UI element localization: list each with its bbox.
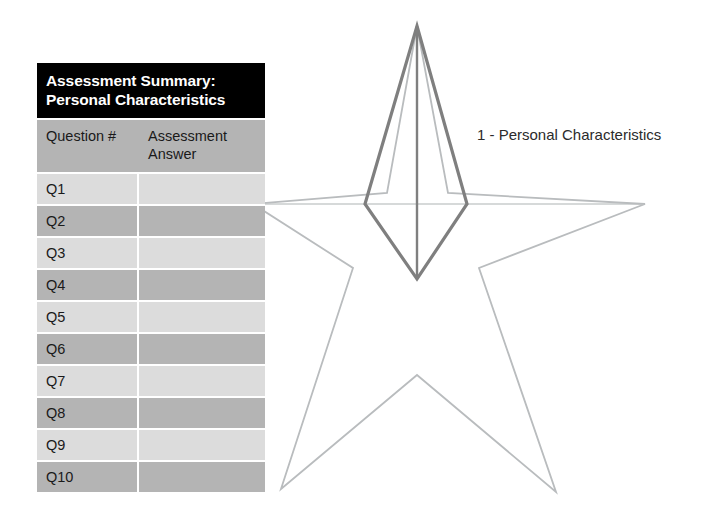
column-header-answer-line2: Answer [148, 145, 265, 163]
cell-assessment-answer [139, 174, 265, 204]
cell-assessment-answer [139, 302, 265, 332]
cell-question-number: Q6 [37, 334, 137, 364]
table-row[interactable]: Q10 [37, 462, 265, 492]
page-root: 1 - Personal Characteristics Assessment … [0, 0, 719, 519]
column-header-question: Question # [37, 120, 137, 172]
cell-assessment-answer [139, 462, 265, 492]
table-body: Q1Q2Q3Q4Q5Q6Q7Q8Q9Q10 [37, 174, 265, 492]
table-row[interactable]: Q2 [37, 206, 265, 236]
cell-question-number: Q10 [37, 462, 137, 492]
table-row[interactable]: Q3 [37, 238, 265, 268]
table-row[interactable]: Q5 [37, 302, 265, 332]
table-title-line2: Personal Characteristics [46, 90, 256, 109]
assessment-summary-table: Assessment Summary: Personal Characteris… [37, 63, 265, 492]
cell-assessment-answer [139, 334, 265, 364]
cell-assessment-answer [139, 398, 265, 428]
table-row[interactable]: Q8 [37, 398, 265, 428]
cell-assessment-answer [139, 238, 265, 268]
table-row[interactable]: Q9 [37, 430, 265, 460]
cell-question-number: Q7 [37, 366, 137, 396]
table-row[interactable]: Q1 [37, 174, 265, 204]
table-header-row: Question # Assessment Answer [37, 120, 265, 172]
cell-question-number: Q9 [37, 430, 137, 460]
table-title: Assessment Summary: Personal Characteris… [37, 63, 265, 118]
cell-assessment-answer [139, 430, 265, 460]
column-header-answer-line1: Assessment [148, 127, 265, 145]
cell-question-number: Q4 [37, 270, 137, 300]
cell-question-number: Q1 [37, 174, 137, 204]
table-row[interactable]: Q4 [37, 270, 265, 300]
cell-question-number: Q8 [37, 398, 137, 428]
legend-item-personal-characteristics: 1 - Personal Characteristics [477, 126, 661, 143]
column-header-assessment-answer: Assessment Answer [139, 120, 265, 172]
table-title-line1: Assessment Summary: [46, 71, 256, 90]
table-row[interactable]: Q6 [37, 334, 265, 364]
cell-question-number: Q3 [37, 238, 137, 268]
cell-question-number: Q5 [37, 302, 137, 332]
cell-question-number: Q2 [37, 206, 137, 236]
cell-assessment-answer [139, 270, 265, 300]
star-outline [253, 26, 645, 492]
cell-assessment-answer [139, 206, 265, 236]
table-row[interactable]: Q7 [37, 366, 265, 396]
cell-assessment-answer [139, 366, 265, 396]
